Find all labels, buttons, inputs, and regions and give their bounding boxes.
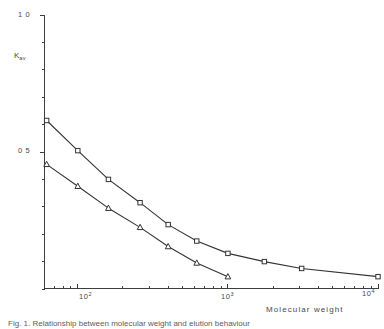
x-tick-label-1e2: 102 xyxy=(79,292,92,301)
x-axis-title: Molecular weight xyxy=(266,305,344,314)
series-lower-curve xyxy=(44,161,231,279)
axis-spines xyxy=(45,15,379,289)
y-axis-title-subscript: av xyxy=(19,55,25,61)
data-point xyxy=(44,118,48,122)
data-point xyxy=(166,222,170,226)
data-point xyxy=(299,266,303,270)
data-point xyxy=(226,251,230,255)
y-tick-label-1-0: 1 0 xyxy=(18,10,30,19)
x-tick-label-1e3-exponent: 3 xyxy=(231,291,234,297)
y-axis-ticks xyxy=(40,15,45,289)
x-tick-label-1e4-mantissa: 10 xyxy=(362,289,372,298)
x-tick-label-1e2-exponent: 2 xyxy=(89,291,92,297)
data-point xyxy=(376,274,380,278)
x-tick-label-1e3-mantissa: 10 xyxy=(221,292,231,301)
data-point xyxy=(106,205,112,210)
figure-caption: Fig. 1. Relationship between molecular w… xyxy=(8,319,380,329)
y-axis-title: Kav xyxy=(14,51,26,60)
x-tick-label-1e2-mantissa: 10 xyxy=(79,292,89,301)
data-point xyxy=(75,183,81,188)
series-line xyxy=(47,120,378,276)
data-point xyxy=(262,259,266,263)
x-tick-label-1e3: 103 xyxy=(221,292,234,301)
y-tick-label-0-5: 0 5 xyxy=(18,146,30,155)
data-point xyxy=(165,243,171,248)
series-line xyxy=(47,164,228,276)
data-series-layer xyxy=(44,118,380,279)
data-point xyxy=(194,260,200,265)
data-point xyxy=(138,200,142,204)
x-tick-label-1e4-exponent: 4 xyxy=(372,288,375,294)
data-point xyxy=(76,148,80,152)
data-point xyxy=(195,239,199,243)
x-tick-label-1e4: 104 xyxy=(362,289,375,298)
data-point xyxy=(137,224,143,229)
data-point xyxy=(106,177,110,181)
